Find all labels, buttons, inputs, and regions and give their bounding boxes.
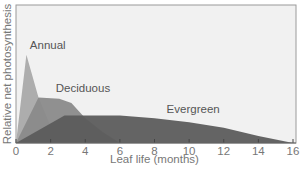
photosynthesis-chart: 0246810121416 AnnualDeciduousEvergreen [0, 0, 302, 170]
series-label-deciduous: Deciduous [56, 82, 111, 94]
y-axis-label: Relative net photosynthesis [0, 5, 14, 143]
series-label-evergreen: Evergreen [167, 103, 220, 115]
y-axis-label-text: Relative net photosynthesis [1, 4, 13, 145]
x-axis-label: Leaf life (months) [16, 153, 293, 165]
series-label-annual: Annual [30, 39, 66, 51]
